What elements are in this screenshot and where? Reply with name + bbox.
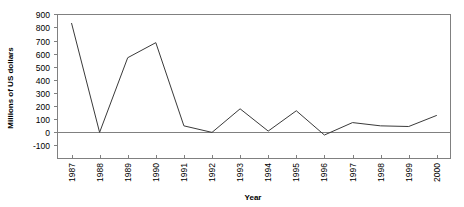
y-tick-label: 600 — [36, 50, 50, 60]
x-tick-label: 1995 — [291, 163, 301, 182]
y-tick-label: 200 — [36, 102, 50, 112]
x-tick-label: 2000 — [432, 163, 442, 182]
x-tick-label: 1990 — [151, 163, 161, 182]
x-axis-title: Year — [245, 193, 262, 202]
x-tick-label: 1992 — [207, 163, 217, 182]
x-tick-label: 1999 — [404, 163, 414, 182]
y-tick-label: -100 — [33, 141, 50, 151]
x-tick-label: 1991 — [179, 163, 189, 182]
y-tick-label: 0 — [45, 128, 50, 138]
y-tick-label: 400 — [36, 76, 50, 86]
y-tick-label: 700 — [36, 37, 50, 47]
y-axis-title: Millions of US dollars — [6, 47, 15, 129]
y-tick-label: 100 — [36, 115, 50, 125]
y-tick-label: 900 — [36, 10, 50, 20]
x-tick-label: 1998 — [376, 163, 386, 182]
x-tick-label: 1989 — [123, 163, 133, 182]
x-tick-label: 1996 — [319, 163, 329, 182]
y-tick-label: 800 — [36, 23, 50, 33]
x-tick-label: 1994 — [263, 163, 273, 182]
y-tick-label: 500 — [36, 63, 50, 73]
x-tick-label: 1993 — [235, 163, 245, 182]
y-tick-label: 300 — [36, 89, 50, 99]
line-chart: 900 800 700 600 500 400 300 200 100 0 -1… — [0, 0, 464, 207]
x-tick-label: 1997 — [348, 163, 358, 182]
chart-canvas: 900 800 700 600 500 400 300 200 100 0 -1… — [0, 0, 464, 207]
x-tick-label: 1987 — [67, 163, 77, 182]
x-tick-label: 1988 — [95, 163, 105, 182]
